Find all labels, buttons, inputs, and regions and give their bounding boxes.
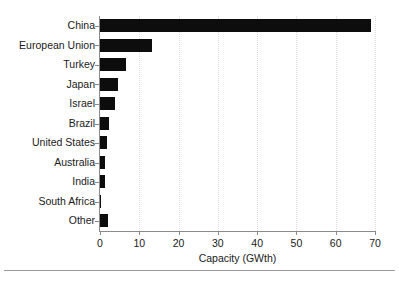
x-axis-tick — [100, 231, 101, 235]
y-axis-tick — [95, 84, 99, 85]
y-axis-tick — [95, 143, 99, 144]
y-axis-tick — [95, 163, 99, 164]
bar-chart-figure: ChinaEuropean UnionTurkeyJapanIsraelBraz… — [0, 0, 399, 283]
bar-row — [100, 192, 375, 212]
y-axis-label: Turkey — [0, 55, 95, 75]
x-axis-tick-label: 40 — [242, 237, 272, 250]
x-axis-tick-label: 60 — [321, 237, 351, 250]
x-axis-tick-label: 10 — [124, 237, 154, 250]
bar[interactable] — [100, 156, 105, 169]
bar[interactable] — [100, 58, 126, 71]
bar-row — [100, 172, 375, 192]
y-axis-label: Australia — [0, 153, 95, 173]
bar-row — [100, 55, 375, 75]
bar[interactable] — [100, 214, 108, 227]
bar-row — [100, 36, 375, 56]
bar[interactable] — [100, 117, 109, 130]
y-axis-label: Brazil — [0, 114, 95, 134]
y-axis-label: Japan — [0, 75, 95, 95]
bar-row — [100, 114, 375, 134]
gridline — [375, 16, 377, 231]
y-axis-tick — [95, 124, 99, 125]
bar[interactable] — [100, 39, 152, 52]
x-axis-tick — [296, 231, 297, 235]
y-axis-category-labels: ChinaEuropean UnionTurkeyJapanIsraelBraz… — [0, 16, 95, 231]
y-axis-line — [99, 16, 100, 232]
x-axis-tick-label: 30 — [203, 237, 233, 250]
x-axis-tick-label: 20 — [164, 237, 194, 250]
x-axis-tick-label: 70 — [360, 237, 390, 250]
y-axis-tick — [95, 221, 99, 222]
y-axis-tick — [95, 26, 99, 27]
x-axis-tick — [139, 231, 140, 235]
bar[interactable] — [100, 175, 105, 188]
plot-area — [100, 16, 375, 231]
y-axis-label: India — [0, 172, 95, 192]
bar[interactable] — [100, 78, 118, 91]
y-axis-label: China — [0, 16, 95, 36]
y-axis-tick — [95, 104, 99, 105]
y-axis-tick — [95, 182, 99, 183]
y-axis-tick — [95, 202, 99, 203]
x-axis-tick-label: 0 — [85, 237, 115, 250]
bar-row — [100, 16, 375, 36]
bar[interactable] — [100, 97, 115, 110]
footer-divider — [4, 270, 395, 271]
y-axis-tick — [95, 45, 99, 46]
y-axis-label: South Africa — [0, 192, 95, 212]
y-axis-label: Israel — [0, 94, 95, 114]
bars-container — [100, 16, 375, 231]
x-axis-title: Capacity (GWth) — [99, 252, 376, 264]
x-axis-tick — [375, 231, 376, 235]
bar[interactable] — [100, 19, 371, 32]
bar-row — [100, 75, 375, 95]
bar-row — [100, 153, 375, 173]
y-axis-label: United States — [0, 133, 95, 153]
bar-row — [100, 94, 375, 114]
x-axis-tick-label: 50 — [281, 237, 311, 250]
bar-row — [100, 211, 375, 231]
x-axis-tick — [218, 231, 219, 235]
x-axis-line — [99, 231, 376, 232]
x-axis-tick — [257, 231, 258, 235]
bar-row — [100, 133, 375, 153]
y-axis-label: European Union — [0, 36, 95, 56]
x-axis-tick — [179, 231, 180, 235]
y-axis-label: Other — [0, 211, 95, 231]
y-axis-tick — [95, 65, 99, 66]
x-axis-tick — [336, 231, 337, 235]
bar[interactable] — [100, 136, 107, 149]
